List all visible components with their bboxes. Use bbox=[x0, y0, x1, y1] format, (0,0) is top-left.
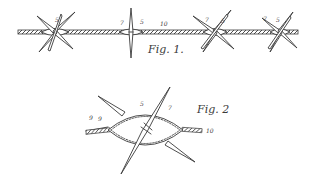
fig2-label-9a: 9 bbox=[89, 114, 93, 121]
fig1-barb3-label-7: 7 bbox=[205, 16, 209, 23]
fig2-barb-upper-left bbox=[98, 96, 125, 116]
fig1-barb4-label-5: 5 bbox=[276, 16, 280, 23]
fig2-drawing: 5 7 9 9 10 Fig. 2 bbox=[86, 87, 229, 174]
fig2-label-9b: 9 bbox=[98, 115, 102, 122]
fig1-wire-label-10: 10 bbox=[160, 20, 168, 27]
fig2-title: Fig. 2 bbox=[196, 103, 229, 116]
fig1-drawing: 5 7 5 10 7 5 7 5 Fig. 1. bbox=[18, 8, 298, 58]
fig1-barb-2 bbox=[119, 8, 143, 58]
fig1-barb2-label-5: 5 bbox=[140, 18, 144, 25]
fig2-barb-lower-right bbox=[165, 141, 195, 162]
fig1-barb1-label-5: 5 bbox=[55, 16, 59, 23]
patent-drawing: 5 7 5 10 7 5 7 5 Fig. 1. 5 7 9 9 10 Fig.… bbox=[0, 0, 314, 181]
fig1-barb3-label-5: 5 bbox=[221, 17, 225, 24]
fig2-label-7: 7 bbox=[168, 104, 172, 111]
fig1-barb4-label-7: 7 bbox=[263, 15, 267, 22]
fig2-label-5: 5 bbox=[140, 100, 144, 107]
fig2-label-10: 10 bbox=[206, 127, 214, 134]
fig1-barb2-label-7: 7 bbox=[120, 19, 124, 26]
fig1-title: Fig. 1. bbox=[147, 43, 184, 56]
